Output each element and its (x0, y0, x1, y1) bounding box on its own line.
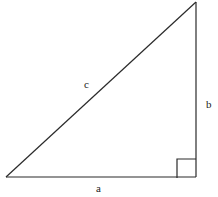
hypotenuse-c (6, 2, 196, 177)
right-triangle-diagram: c b a (0, 0, 218, 197)
label-a: a (96, 182, 101, 194)
label-c: c (84, 78, 89, 90)
right-angle-marker (177, 159, 196, 178)
label-b: b (206, 98, 212, 110)
